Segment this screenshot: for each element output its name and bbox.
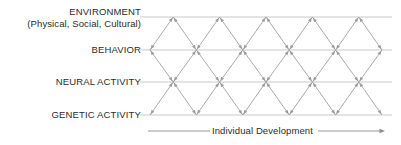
- lattice-arrow-b2-c9: [359, 82, 382, 115]
- lattice-arrow-b1-c4-head-forward: [262, 77, 266, 81]
- lattice-arrow-b2-c3-head-forward: [238, 110, 242, 114]
- lattice-arrow-b1-c1-head-forward: [192, 51, 196, 55]
- lattice-arrow-b1-c2-head-reverse: [197, 51, 201, 55]
- lattice-arrow-b0-c8-head-reverse: [336, 45, 340, 49]
- lattice-arrow-b0-c0-head-reverse: [151, 45, 155, 49]
- lattice-arrow-b1-c3-head-forward: [238, 51, 242, 55]
- lattice-arrows-group: [150, 17, 382, 115]
- lattice-arrow-b1-c5: [266, 50, 289, 82]
- lattice-arrow-b0-c6-head-forward: [308, 18, 312, 22]
- lattice-arrow-b0-c3-head-forward: [238, 45, 242, 49]
- lattice-arrow-b0-c6-head-reverse: [290, 45, 294, 49]
- lattice-arrow-b2-c1-head-reverse: [174, 83, 178, 87]
- lattice-arrow-b2-c4: [243, 82, 266, 115]
- lattice-arrow-b1-c7-head-reverse: [313, 77, 317, 81]
- lattice-arrow-b1-c8: [336, 50, 359, 82]
- lattice-arrow-b0-c8: [336, 17, 359, 50]
- lattice-arrow-b2-c1-head-forward: [192, 110, 196, 114]
- lattice-arrow-b1-c8-head-forward: [354, 77, 358, 81]
- lattice-graphic: [0, 0, 401, 145]
- lattice-arrow-b0-c5-head-reverse: [267, 18, 271, 22]
- lattice-arrow-b1-c9-head-reverse: [359, 77, 363, 81]
- lattice-arrow-b2-c8: [336, 82, 359, 115]
- lattice-arrow-b0-c7-head-reverse: [313, 18, 317, 22]
- lattice-arrow-b0-c5: [266, 17, 289, 50]
- lattice-arrow-b2-c7-head-reverse: [313, 83, 317, 87]
- lattice-arrow-b0-c1: [173, 17, 196, 50]
- lattice-arrow-b1-c2: [196, 50, 219, 82]
- lattice-arrow-b2-c5: [266, 82, 289, 115]
- lattice-arrow-b1-c0-head-forward: [169, 77, 173, 81]
- lattice-arrow-b1-c5-head-forward: [285, 51, 289, 55]
- lattice-arrow-b2-c7: [312, 82, 335, 115]
- developmental-systems-diagram: ENVIRONMENT (Physical, Social, Cultural)…: [0, 0, 401, 145]
- lattice-arrow-b1-c3: [220, 50, 243, 82]
- lattice-arrow-b2-c4-head-forward: [262, 83, 266, 87]
- lattice-arrow-b1-c9-head-forward: [378, 51, 382, 55]
- lattice-arrow-b0-c6: [289, 17, 312, 50]
- lattice-arrow-b2-c0-head-reverse: [151, 110, 155, 114]
- lattice-arrow-b1-c0: [150, 50, 173, 82]
- lattice-arrow-b0-c9: [359, 17, 382, 50]
- lattice-arrow-b0-c7-head-forward: [331, 45, 335, 49]
- lattice-arrow-b1-c6: [289, 50, 312, 82]
- lattice-arrow-b0-c0: [150, 17, 173, 50]
- lattice-arrow-b0-c0-head-forward: [169, 18, 173, 22]
- lattice-arrow-b0-c9-head-reverse: [359, 18, 363, 22]
- lattice-arrow-b1-c7-head-forward: [331, 51, 335, 55]
- lattice-arrow-b2-c6: [289, 82, 312, 115]
- lattice-arrow-b2-c0-head-forward: [169, 83, 173, 87]
- lattice-arrow-b1-c1: [173, 50, 196, 82]
- lattice-arrow-b2-c2: [196, 82, 219, 115]
- lattice-arrow-b2-c6-head-reverse: [290, 110, 294, 114]
- lattice-arrow-b1-c9: [359, 50, 382, 82]
- lattice-arrow-b0-c2-head-forward: [215, 18, 219, 22]
- lattice-arrow-b1-c0-head-reverse: [151, 51, 155, 55]
- lattice-arrow-b1-c1-head-reverse: [174, 77, 178, 81]
- lattice-arrow-b1-c5-head-reverse: [267, 77, 271, 81]
- lattice-arrow-b0-c4-head-forward: [262, 18, 266, 22]
- lattice-arrow-b2-c9-head-forward: [378, 110, 382, 114]
- lattice-arrow-b1-c4-head-reverse: [243, 51, 247, 55]
- lattice-arrow-b0-c7: [312, 17, 335, 50]
- axis-caption-individual-development: Individual Development: [212, 125, 313, 136]
- lattice-arrow-b2-c4-head-reverse: [243, 110, 247, 114]
- axis-right-arrow-icon: [380, 129, 386, 134]
- lattice-arrow-b0-c1-head-forward: [192, 45, 196, 49]
- lattice-arrow-b0-c3-head-reverse: [220, 18, 224, 22]
- lattice-arrow-b2-c3: [220, 82, 243, 115]
- lattice-arrow-b1-c6-head-forward: [308, 77, 312, 81]
- lattice-arrow-b2-c5-head-reverse: [267, 83, 271, 87]
- lattice-arrow-b2-c8-head-reverse: [336, 110, 340, 114]
- lattice-arrow-b2-c6-head-forward: [308, 83, 312, 87]
- lattice-arrow-b1-c6-head-reverse: [290, 51, 294, 55]
- lattice-arrow-b1-c2-head-forward: [215, 77, 219, 81]
- lattice-arrow-b0-c9-head-forward: [378, 45, 382, 49]
- lattice-arrow-b0-c2: [196, 17, 219, 50]
- lattice-arrow-b2-c1: [173, 82, 196, 115]
- lattice-arrow-b0-c4-head-reverse: [243, 45, 247, 49]
- lattice-arrow-b0-c8-head-forward: [354, 18, 358, 22]
- lattice-arrow-b0-c2-head-reverse: [197, 45, 201, 49]
- lattice-arrow-b0-c5-head-forward: [285, 45, 289, 49]
- lattice-arrow-b1-c3-head-reverse: [220, 77, 224, 81]
- lattice-arrow-b0-c1-head-reverse: [174, 18, 178, 22]
- level-lines-group: [140, 17, 392, 115]
- lattice-arrow-b2-c0: [150, 82, 173, 115]
- lattice-arrow-b1-c4: [243, 50, 266, 82]
- lattice-arrow-b2-c9-head-reverse: [359, 83, 363, 87]
- lattice-arrow-b0-c3: [220, 17, 243, 50]
- lattice-arrow-b0-c4: [243, 17, 266, 50]
- lattice-arrow-b2-c5-head-forward: [285, 110, 289, 114]
- lattice-arrow-b2-c8-head-forward: [354, 83, 358, 87]
- lattice-arrow-b1-c7: [312, 50, 335, 82]
- lattice-arrow-b2-c2-head-forward: [215, 83, 219, 87]
- lattice-arrow-b1-c8-head-reverse: [336, 51, 340, 55]
- lattice-arrow-b2-c2-head-reverse: [197, 110, 201, 114]
- lattice-arrow-b2-c7-head-forward: [331, 110, 335, 114]
- lattice-arrow-b2-c3-head-reverse: [220, 83, 224, 87]
